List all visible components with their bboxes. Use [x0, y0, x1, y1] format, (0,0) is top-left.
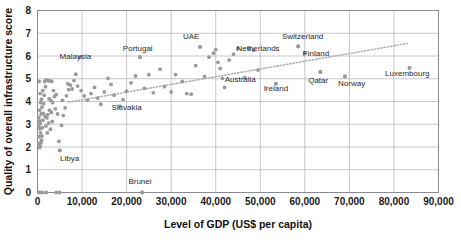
data-point [45, 131, 49, 135]
data-point [256, 68, 260, 72]
data-point [44, 85, 48, 89]
data-point [76, 84, 80, 88]
x-axis-title: Level of GDP (US$ per capita) [164, 218, 312, 230]
data-point [82, 94, 86, 98]
data-point [38, 92, 42, 96]
data-point [89, 92, 93, 96]
y-axis-title: Quality of overall infrastructure score [2, 8, 14, 195]
y-tick-label: 2 [25, 142, 31, 153]
data-point [218, 67, 222, 71]
data-point [96, 96, 100, 100]
data-point [72, 79, 76, 83]
data-point [54, 191, 58, 195]
data-point [38, 146, 42, 150]
data-point [163, 85, 167, 89]
data-point [189, 92, 193, 96]
data-point-labeled [343, 75, 347, 79]
data-point [39, 141, 43, 145]
point-annotation-label: Luxembourg [385, 69, 429, 78]
data-point [143, 86, 147, 90]
data-point [46, 113, 50, 117]
data-point [134, 74, 138, 78]
data-point [58, 191, 62, 195]
point-annotation-label: Malaysia [60, 52, 92, 61]
x-tick-label: 10,000 [67, 196, 98, 207]
point-annotation-label: Slovakia [111, 103, 142, 112]
data-point [185, 92, 189, 96]
y-tick-label: 6 [25, 51, 31, 62]
data-point [212, 51, 216, 55]
data-point [45, 116, 49, 120]
data-point [44, 124, 48, 128]
data-point [63, 106, 67, 110]
y-tick-label: 0 [25, 187, 31, 198]
x-tick-label: 90,000 [423, 196, 454, 207]
data-point-labeled [296, 45, 300, 49]
point-annotation-label: UAE [183, 32, 199, 41]
point-annotation-label: Switzerland [282, 32, 323, 41]
x-tick-label: 80,000 [379, 196, 410, 207]
data-point [216, 60, 220, 64]
point-annotation-label: Australia [225, 75, 257, 84]
point-annotation-label: Qatar [308, 76, 328, 85]
data-point [52, 89, 56, 93]
data-point [174, 73, 178, 77]
data-point [41, 89, 45, 93]
data-point [37, 191, 41, 195]
data-point [45, 191, 49, 195]
data-point [79, 89, 83, 93]
data-point [57, 139, 61, 143]
data-point [49, 111, 53, 115]
data-point [67, 88, 71, 92]
data-point [102, 90, 106, 94]
data-point [51, 101, 55, 105]
data-point [194, 64, 198, 68]
point-annotation-label: Finland [303, 49, 329, 58]
data-point [65, 94, 69, 98]
data-point-labeled [58, 149, 62, 153]
x-tick-label: 50,000 [245, 196, 276, 207]
data-point [232, 52, 236, 56]
data-point [203, 75, 207, 79]
data-point [158, 67, 162, 71]
data-point [41, 118, 45, 122]
x-tick-label: 0 [35, 196, 41, 207]
data-point [214, 48, 218, 52]
data-point [37, 80, 41, 84]
point-annotation-label: Brunei [128, 177, 151, 186]
data-point [112, 93, 116, 97]
y-axis-tick-labels: 012345678 [25, 5, 31, 198]
data-point [40, 134, 44, 138]
y-tick-label: 1 [25, 164, 31, 175]
data-point [125, 89, 129, 93]
data-point [40, 97, 44, 101]
data-point [42, 93, 46, 97]
data-point [69, 83, 73, 87]
y-tick-label: 7 [25, 28, 31, 39]
data-point [60, 123, 64, 127]
y-tick-label: 3 [25, 119, 31, 130]
data-point [93, 85, 97, 89]
y-tick-label: 8 [25, 5, 31, 16]
scatter-chart-container: 010,00020,00030,00040,00050,00060,00070,… [0, 0, 461, 248]
point-annotation-label: Norway [338, 79, 365, 88]
data-point [50, 80, 54, 84]
x-tick-label: 30,000 [156, 196, 187, 207]
data-point [109, 83, 113, 87]
data-point [121, 98, 125, 102]
data-point [53, 107, 57, 111]
point-annotation-label: Netherlands [236, 44, 279, 53]
chart-plot-svg: 010,00020,00030,00040,00050,00060,00070,… [0, 0, 461, 248]
data-point [61, 98, 65, 102]
data-point [227, 58, 231, 62]
data-point [47, 121, 51, 125]
data-point [50, 120, 54, 124]
data-point [61, 114, 65, 118]
data-point-labeled [140, 191, 144, 195]
y-tick-label: 4 [25, 96, 31, 107]
x-tick-label: 40,000 [200, 196, 231, 207]
data-point [169, 90, 173, 94]
data-point-labeled [138, 55, 142, 59]
data-point [37, 116, 41, 120]
data-point [70, 87, 74, 91]
